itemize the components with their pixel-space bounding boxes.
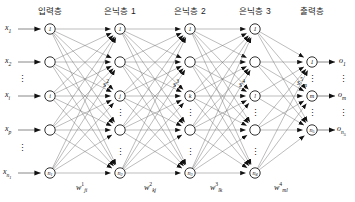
ellipsis-outlabel-2: ⋮ xyxy=(339,109,348,118)
activation-label-s2j: s2j xyxy=(103,78,110,90)
neuron-node xyxy=(250,57,260,67)
ellipsis-h2-1: ⋮ xyxy=(186,109,195,118)
weight-label-w2kj: w2kj xyxy=(144,181,156,193)
weight-label-w4ml: w4ml xyxy=(274,181,288,193)
output-label-on5: on5 xyxy=(337,124,346,137)
neuron-node xyxy=(45,57,55,67)
neuron-label: 1 xyxy=(48,25,51,32)
edge-group xyxy=(52,29,307,173)
layer-header-hidden-2: 은닉층 2 xyxy=(174,4,206,16)
neuron-node xyxy=(115,125,125,135)
activation-label-s4l: s4l xyxy=(239,78,246,90)
neuron-node xyxy=(185,125,195,135)
neuron-label: j xyxy=(118,92,121,99)
ellipsis-input-2: ⋮ xyxy=(18,144,27,153)
activation-label-s5m: s5m xyxy=(297,76,307,88)
neuron-node xyxy=(45,125,55,135)
ellipsis-output-1: ⋮ xyxy=(308,75,317,84)
neuron-label: 1 xyxy=(310,58,313,65)
ellipsis-h1-1: ⋮ xyxy=(116,109,125,118)
input-label-xi: xi xyxy=(5,90,10,101)
weight-label-w3lk: w3lk xyxy=(210,181,222,193)
output-label-om: om xyxy=(338,90,346,101)
ellipsis-h2-2: ⋮ xyxy=(186,148,195,157)
neuron-label: i xyxy=(49,92,51,99)
weight-label-w1ji: w1ji xyxy=(76,181,87,193)
neuron-label: m xyxy=(310,92,315,99)
neuron-label: k xyxy=(189,92,192,99)
ellipsis-h3-1: ⋮ xyxy=(251,109,260,118)
neuron-node xyxy=(250,125,260,135)
layer-header-hidden-3: 은닉층 3 xyxy=(239,4,271,16)
input-label-xn1: xn1 xyxy=(3,167,12,180)
neuron-label: l xyxy=(254,92,256,99)
layer-header-hidden-1: 은닉층 1 xyxy=(104,4,136,16)
neuron-node xyxy=(185,57,195,67)
output-label-o1: o1 xyxy=(339,56,346,67)
ellipsis-output-2: ⋮ xyxy=(308,109,317,118)
neuron-label: 1 xyxy=(253,25,256,32)
ellipsis-h1-2: ⋮ xyxy=(116,148,125,157)
node-group: 1in11jn21kn31ln41mn5 xyxy=(45,24,317,178)
neuron-label: 1 xyxy=(188,25,191,32)
input-label-xp: xp xyxy=(5,124,11,135)
layer-header-input: 입력층 xyxy=(38,4,63,16)
input-label-x1: x1 xyxy=(5,23,11,34)
ellipsis-input-1: ⋮ xyxy=(18,75,27,84)
neuron-label: 1 xyxy=(118,25,121,32)
ellipsis-outlabel-1: ⋮ xyxy=(339,75,348,84)
neuron-node xyxy=(115,57,125,67)
ellipsis-h3-2: ⋮ xyxy=(251,148,260,157)
input-label-x2: x2 xyxy=(5,56,11,67)
activation-label-s3k: s3k xyxy=(173,78,181,90)
neural-network-diagram: 1in11jn21kn31ln41mn5 xyxy=(0,0,355,202)
layer-header-output: 출력층 xyxy=(300,4,325,16)
